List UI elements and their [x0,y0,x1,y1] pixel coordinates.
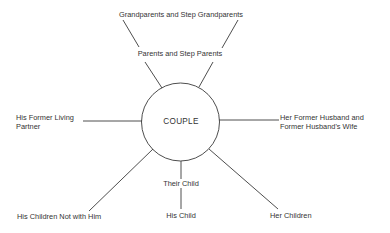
his-former-partner-line2: Partner [16,122,74,131]
couple-label: COUPLE [163,117,198,126]
their-child-label: Their Child [163,179,199,188]
his-former-partner-label: His Former Living Partner [16,113,74,131]
his-former-partner-line1: His Former Living [16,113,74,122]
her-former-husband-line1: Her Former Husband and [280,113,364,122]
parents-label: Parents and Step Parents [138,49,223,58]
his-child-label: His Child [166,211,196,220]
her-former-husband-line2: Former Husband's Wife [280,122,364,131]
her-children-label: Her Children [270,211,312,220]
his-children-not-with-him-label: His Children Not with Him [17,212,101,221]
grandparents-label: Grandparents and Step Grandparents [119,10,243,19]
her-former-husband-label: Her Former Husband and Former Husband's … [280,113,364,131]
